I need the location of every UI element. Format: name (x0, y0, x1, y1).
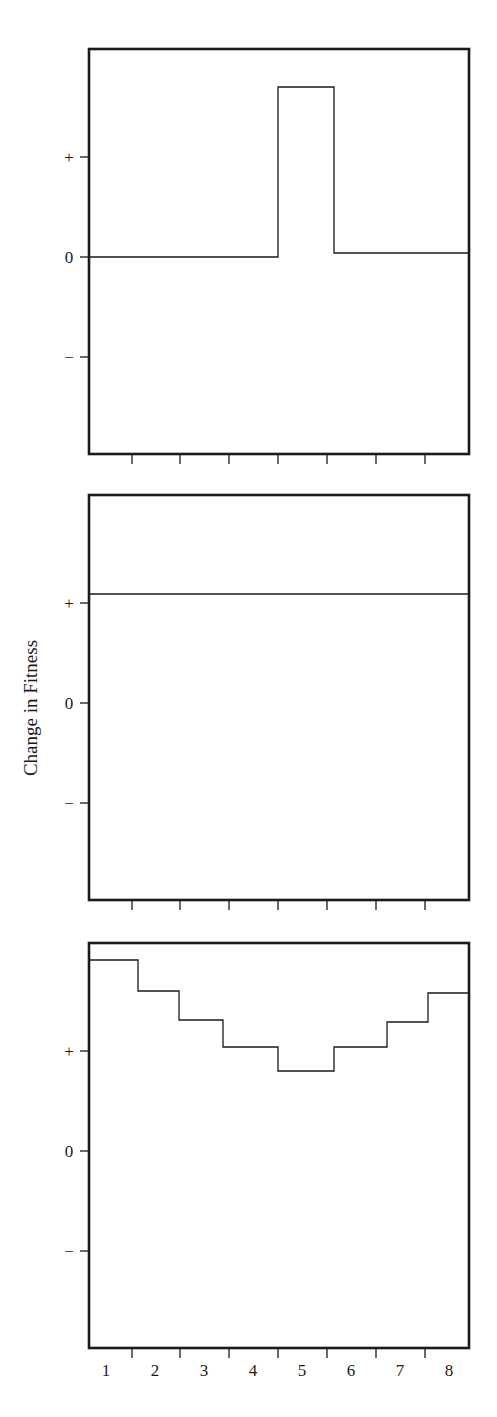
y-axis-label: Change in Fitness (20, 640, 41, 776)
x-tick-label: 5 (298, 1361, 307, 1380)
step-series (89, 960, 469, 1071)
y-tick-label: − (64, 348, 74, 367)
x-tick-label: 8 (445, 1361, 454, 1380)
x-tick-label: 1 (102, 1361, 111, 1380)
y-tick-label: 0 (65, 694, 74, 713)
panel-bottom: +0−12345678 (64, 943, 469, 1380)
x-tick-label: 2 (151, 1361, 160, 1380)
panel-top: +0− (64, 49, 469, 464)
chart-figure: Change in Fitness +0−+0−+0−12345678 (0, 0, 497, 1417)
x-tick-label: 4 (249, 1361, 258, 1380)
y-tick-label: + (64, 594, 74, 613)
y-tick-label: − (64, 794, 74, 813)
panels: +0−+0−+0−12345678 (64, 49, 469, 1380)
panel-middle: +0− (64, 495, 469, 910)
x-tick-label: 3 (200, 1361, 209, 1380)
y-tick-label: 0 (65, 248, 74, 267)
x-tick-label: 7 (396, 1361, 405, 1380)
y-axis-label-group: Change in Fitness (20, 640, 41, 776)
y-tick-label: + (64, 1042, 74, 1061)
y-tick-label: 0 (65, 1142, 74, 1161)
step-series (89, 87, 469, 257)
y-tick-label: − (64, 1242, 74, 1261)
x-tick-label: 6 (347, 1361, 356, 1380)
plot-frame (89, 943, 469, 1348)
y-tick-label: + (64, 148, 74, 167)
plot-frame (89, 49, 469, 454)
plot-frame (89, 495, 469, 900)
